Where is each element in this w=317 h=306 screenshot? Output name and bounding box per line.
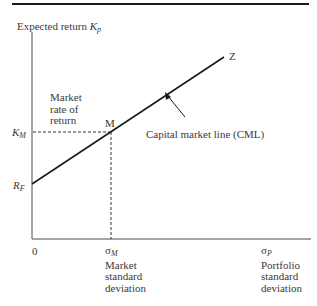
point-m-label: M — [105, 117, 115, 129]
origin-label: 0 — [32, 245, 38, 257]
point-z-label: Z — [229, 50, 236, 62]
rf-tick-label: RF — [13, 179, 25, 195]
km-tick-label: KM — [12, 126, 26, 142]
sigma-p-tick-label: σP Portfolio standard deviation — [261, 245, 302, 294]
sigma-m-tick-label: σM Market standard deviation — [105, 245, 146, 294]
cml-pointer-arrow — [167, 95, 185, 117]
cml-label: Capital market line (CML) — [146, 128, 264, 140]
y-axis-label: Expected return Kp — [17, 20, 101, 36]
market-rate-label: Market rate of return — [50, 92, 82, 127]
